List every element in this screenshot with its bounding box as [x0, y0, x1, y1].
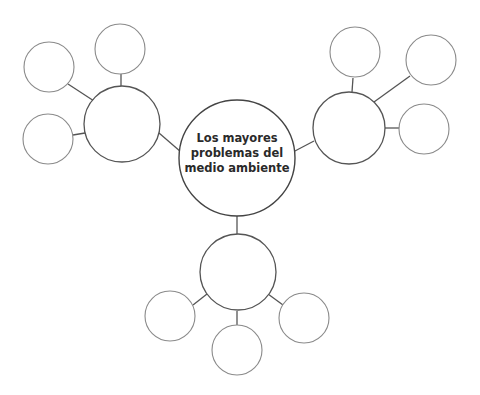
- connector-right-top: [352, 78, 353, 92]
- left-detail-circle-3[interactable]: [23, 114, 73, 164]
- right-subtopic-circle[interactable]: [313, 92, 385, 164]
- central-topic-label: Los mayores problemas del medio ambiente: [182, 131, 292, 176]
- central-topic-line-3: medio ambiente: [182, 161, 292, 176]
- connector-bottom-left: [193, 294, 207, 305]
- right-detail-circle-3[interactable]: [399, 104, 449, 154]
- bottom-detail-circle-1[interactable]: [145, 291, 195, 341]
- right-detail-circle-1[interactable]: [330, 27, 380, 77]
- connector-left-topleft: [68, 84, 94, 101]
- left-subtopic-circle[interactable]: [84, 86, 160, 162]
- right-detail-circle-2[interactable]: [406, 35, 456, 85]
- bottom-detail-circle-2[interactable]: [212, 325, 262, 375]
- bubble-map-diagram: [0, 0, 480, 395]
- connector-left-bottomleft: [73, 133, 85, 135]
- connector-bottom-right: [268, 294, 283, 305]
- left-detail-circle-1[interactable]: [24, 42, 74, 92]
- connector-center-left: [159, 133, 181, 152]
- connector-center-right: [293, 141, 314, 152]
- left-detail-circle-2[interactable]: [95, 24, 145, 74]
- central-topic-line-2: problemas del: [182, 146, 292, 161]
- central-topic-line-1: Los mayores: [182, 131, 292, 146]
- bottom-detail-circle-3[interactable]: [279, 293, 329, 343]
- bottom-subtopic-circle[interactable]: [200, 234, 276, 310]
- connector-right-topright: [374, 76, 410, 102]
